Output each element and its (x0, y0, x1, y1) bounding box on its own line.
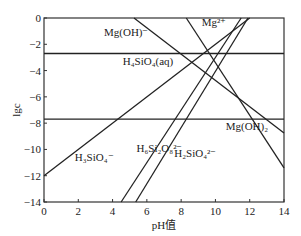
series-line (134, 18, 284, 133)
x-tick-label: 2 (76, 205, 82, 217)
y-tick-label: −4 (29, 65, 41, 77)
plot-border (44, 18, 284, 202)
x-tick-label: 12 (244, 205, 255, 217)
series-annotation: H₃SiO₄⁻ (75, 151, 114, 163)
series-annotation: H₂SiO₄²⁻ (174, 147, 216, 159)
series-annotation: Mg(OH)⁻ (104, 26, 149, 39)
series-annotation: H₄SiO₄(aq) (123, 55, 174, 68)
y-tick-label: −8 (29, 117, 41, 129)
axis-ticks: 024681012140−2−4−6−8−10−12−14 (24, 12, 290, 217)
x-tick-label: 0 (41, 205, 47, 217)
x-axis-label: pH值 (152, 219, 176, 231)
y-tick-label: −12 (24, 170, 41, 182)
x-tick-label: 4 (110, 205, 116, 217)
series-line (121, 18, 241, 202)
annotations: Mg(OH)⁻Mg²⁺H₄SiO₄(aq)Mg(OH)₂H₃SiO₄⁻H₆Si₂… (75, 16, 268, 163)
plot-frame (44, 18, 284, 202)
chart: 024681012140−2−4−6−8−10−12−14 Mg(OH)⁻Mg²… (0, 0, 301, 236)
y-tick-label: −6 (29, 91, 41, 103)
series-annotation: Mg(OH)₂ (226, 120, 268, 133)
y-tick-label: 0 (36, 12, 42, 24)
y-tick-label: −10 (24, 143, 42, 155)
x-tick-label: 8 (178, 205, 184, 217)
y-axis-label: lgc (10, 103, 22, 117)
x-tick-label: 10 (210, 205, 222, 217)
y-tick-label: −14 (24, 196, 42, 208)
y-tick-label: −2 (29, 38, 41, 50)
series-line (186, 18, 284, 168)
series-line (136, 18, 248, 202)
x-tick-label: 14 (279, 205, 291, 217)
series-annotation: Mg²⁺ (202, 16, 227, 28)
x-tick-label: 6 (144, 205, 150, 217)
data-lines (44, 18, 284, 202)
